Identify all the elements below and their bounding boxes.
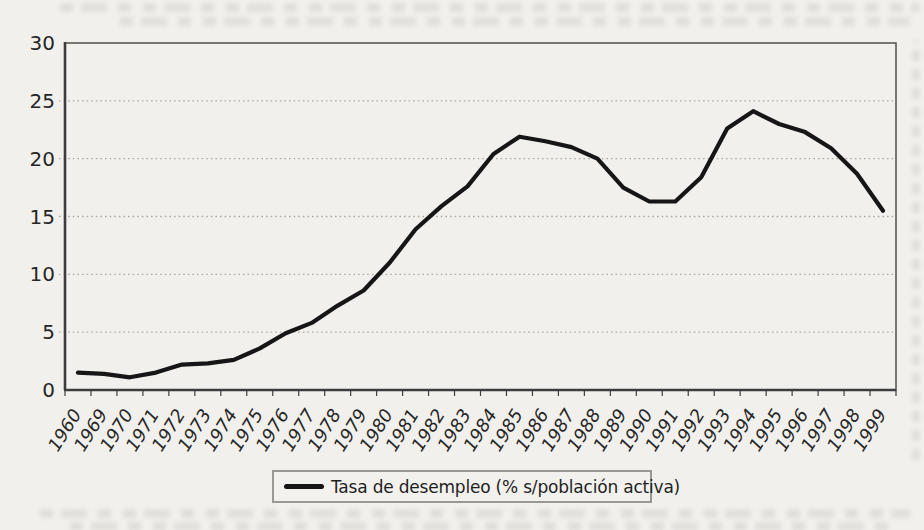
legend-series-label: Tasa de desempleo (% s/población activa) bbox=[331, 477, 680, 497]
data-line-tasa-de-desempleo bbox=[78, 111, 883, 377]
y-axis-labels: 051015202530 bbox=[30, 31, 55, 402]
svg-text:5: 5 bbox=[42, 320, 55, 344]
svg-text:20: 20 bbox=[30, 147, 55, 171]
svg-text:15: 15 bbox=[30, 205, 55, 229]
svg-text:0: 0 bbox=[42, 378, 55, 402]
chart-legend: Tasa de desempleo (% s/población activa) bbox=[272, 470, 652, 503]
plot-border bbox=[65, 43, 896, 390]
svg-text:30: 30 bbox=[30, 31, 55, 55]
svg-text:10: 10 bbox=[30, 262, 55, 286]
svg-text:25: 25 bbox=[30, 89, 55, 113]
legend-line-swatch-icon bbox=[284, 484, 324, 489]
unemployment-rate-line-chart: 0510152025301960196919701971197219731974… bbox=[0, 0, 924, 530]
scanned-page: 0510152025301960196919701971197219731974… bbox=[0, 0, 924, 530]
gridlines bbox=[59, 101, 896, 332]
x-axis-labels: 1960196919701971197219731974197519761977… bbox=[43, 405, 890, 455]
